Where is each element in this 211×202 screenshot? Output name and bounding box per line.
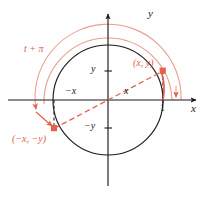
x-axis-label: x [191,103,196,114]
point-neg-x-neg-y-marker [51,125,57,131]
arc-t-plus-pi-label: t + π [24,44,44,54]
x-tick-one-label: 1 [160,103,165,113]
point-xy-label: (x, y) [133,58,154,68]
y-tick-positive-label: y [91,64,95,74]
arc-arrow-to-point-neg [36,112,52,126]
y-tick-negative-label: −y [84,121,95,131]
y-axis-label: y [148,8,153,19]
unit-circle-figure: y x 1 y −y x −x (x, y) (−x, −y) t t + π [0,0,211,202]
arc-t-label: t [162,78,165,87]
x-segment-positive-label: x [124,86,128,96]
x-segment-negative-label: −x [65,86,76,96]
point-neg-x-neg-y-label: (−x, −y) [12,134,46,144]
point-xy-marker [160,68,166,74]
figure-canvas [0,0,211,202]
